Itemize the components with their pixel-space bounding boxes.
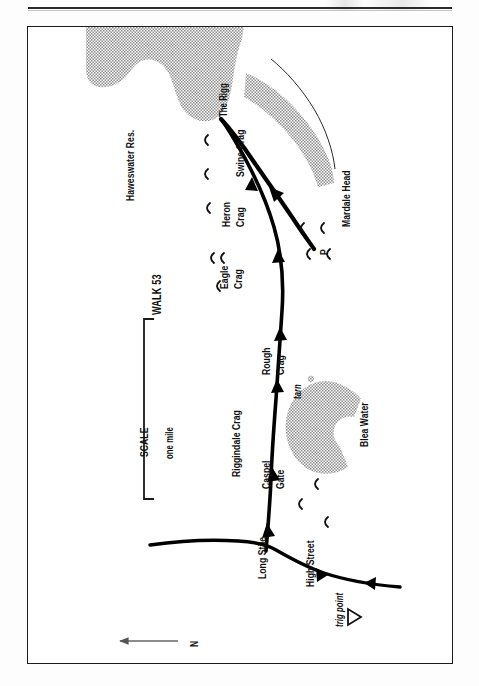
header-rule: [28, 7, 452, 9]
header-rule-shadow: [28, 10, 452, 11]
scale-label: SCALE: [138, 428, 150, 457]
label-riggindale-crag: Riggindale Crag: [230, 410, 242, 477]
label-parking: P: [318, 249, 330, 255]
label-rough-crag-line1: Rough: [260, 347, 272, 375]
label-trig-point: trig point: [334, 593, 345, 627]
label-heron-crag-line2: Crag: [234, 207, 246, 227]
tarn-symbol: [308, 376, 314, 382]
label-high-street: High Street: [304, 540, 316, 587]
map-frame: WALK 53 SCALE one mile Haweswater Res. T…: [27, 26, 453, 664]
label-heron-crag-line1: Heron: [220, 202, 232, 227]
label-blea-water: Blea Water: [358, 402, 370, 447]
label-eagle-crag-line2: Crag: [232, 269, 244, 289]
label-long-stile: Long Stile: [256, 537, 268, 579]
label-tarn: tarn: [292, 384, 303, 399]
label-haweswater: Haweswater Res.: [124, 130, 136, 201]
label-mardale-head: Mardale Head: [340, 170, 352, 227]
scale-bar: [144, 319, 154, 499]
high-street-ridge-path: [150, 540, 400, 587]
label-eagle-crag-line1: Eagle: [218, 266, 230, 289]
compass-label: N: [188, 641, 200, 647]
label-rough-crag-line2: Crag: [274, 355, 286, 375]
label-caspel-gate-line2: Gate: [274, 470, 286, 489]
trig-point-symbol: [348, 609, 361, 625]
label-the-rigg: The Rigg: [218, 83, 229, 117]
route-direction-arrows: [245, 177, 376, 590]
map-title: WALK 53: [150, 274, 163, 315]
scale-distance-label: one mile: [164, 427, 175, 459]
map-artwork: [28, 27, 452, 663]
label-swine-crag: Swine Crag: [234, 130, 246, 177]
label-caspel-gate-line1: Caspel: [260, 460, 272, 489]
